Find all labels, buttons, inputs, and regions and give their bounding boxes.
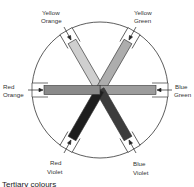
label-yellow-green-1: Yellow <box>134 9 152 16</box>
spoke-red-violet <box>68 88 104 141</box>
label-yellow-orange-2: Orange <box>41 17 62 24</box>
spoke-blue-green <box>100 86 156 95</box>
label-red-violet-2: Violet <box>47 168 63 175</box>
tertiary-colour-wheel: Yellow Orange Yellow Green Blue Green Bl… <box>0 0 194 187</box>
label-blue-violet-2: Violet <box>133 169 149 176</box>
label-yellow-green-2: Green <box>134 17 152 24</box>
label-yellow-orange-1: Yellow <box>42 9 60 16</box>
spoke-yellow-green <box>96 39 132 92</box>
label-blue-green-1: Blue <box>175 83 188 90</box>
diagram-caption: Tertiary colours <box>2 180 56 187</box>
label-red-violet-1: Red <box>50 159 62 166</box>
label-blue-violet-1: Blue <box>133 160 146 167</box>
label-red-orange-1: Red <box>3 83 15 90</box>
label-blue-green-2: Green <box>174 91 192 98</box>
label-red-orange-2: Orange <box>3 91 24 98</box>
spoke-red-orange <box>44 86 100 95</box>
